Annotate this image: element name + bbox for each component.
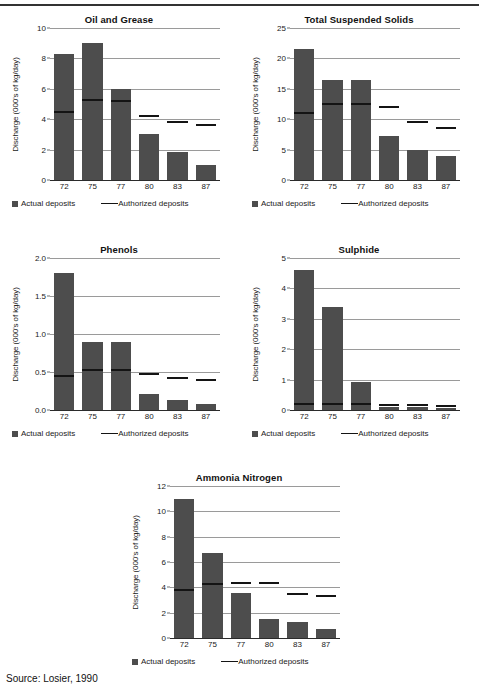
y-axis-label: Discharge (000's of kg/day) — [248, 258, 262, 410]
plot-area: Discharge (000's of kg/day)0510152025727… — [248, 28, 470, 196]
plot-area: Discharge (000's of kg/day)0.00.51.01.52… — [8, 258, 230, 426]
x-tick-label: 72 — [300, 412, 309, 421]
bar — [54, 273, 74, 410]
authorized-deposit-marker — [231, 582, 251, 584]
y-tick-label: 0.0 — [35, 406, 50, 415]
gridline — [50, 334, 220, 335]
gridline — [290, 28, 460, 29]
y-tick-label: 5 — [282, 254, 290, 263]
bar — [196, 404, 216, 410]
plot-area: Discharge (000's of kg/day)0246810127275… — [128, 486, 350, 654]
gridline — [50, 119, 220, 120]
authorized-deposit-marker — [436, 405, 456, 407]
bar — [351, 382, 371, 410]
gridline — [170, 486, 340, 487]
x-tick-label: 87 — [201, 182, 210, 191]
gridline — [50, 258, 220, 259]
authorized-deposit-marker — [139, 115, 159, 117]
bar — [82, 342, 102, 410]
gridline — [170, 613, 340, 614]
legend-label-authorized: Authorized deposits — [358, 429, 428, 438]
gridline — [170, 511, 340, 512]
authorized-deposit-marker — [202, 583, 222, 585]
authorized-deposit-marker — [379, 404, 399, 406]
gridline — [290, 58, 460, 59]
bar — [322, 80, 342, 180]
x-tick-label: 80 — [385, 182, 394, 191]
x-tick-label: 72 — [180, 640, 189, 649]
authorized-deposit-marker — [196, 379, 216, 381]
plot-area: Discharge (000's of kg/day)0123457275778… — [248, 258, 470, 426]
line-swatch-icon — [101, 203, 118, 205]
source-note: Source: Losier, 1990 — [6, 673, 98, 684]
legend-item-actual: Actual deposits — [12, 429, 75, 438]
x-tick-label: 72 — [60, 182, 69, 191]
y-tick-label: 12 — [157, 482, 170, 491]
chart-legend: Actual depositsAuthorized deposits — [252, 199, 474, 208]
y-tick-label: 6 — [162, 558, 170, 567]
chart-panel: Ammonia NitrogenDischarge (000's of kg/d… — [128, 472, 350, 666]
square-swatch-icon — [12, 201, 18, 207]
authorized-deposit-marker — [436, 127, 456, 129]
y-tick-label: 6 — [42, 84, 50, 93]
y-axis-label-text: Discharge (000's of kg/day) — [11, 287, 20, 381]
x-tick-label: 75 — [328, 412, 337, 421]
x-tick-label: 83 — [173, 182, 182, 191]
legend-item-authorized: Authorized deposits — [101, 429, 188, 438]
bar — [54, 54, 74, 180]
y-tick-label: 0 — [282, 406, 290, 415]
authorized-deposit-marker — [259, 582, 279, 584]
legend-label-actual: Actual deposits — [21, 199, 75, 208]
authorized-deposit-marker — [407, 121, 427, 123]
y-axis-label-text: Discharge (000's of kg/day) — [11, 57, 20, 151]
bar — [139, 394, 159, 410]
authorized-deposit-marker — [351, 103, 371, 105]
square-swatch-icon — [252, 431, 258, 437]
bar — [196, 165, 216, 180]
legend-item-actual: Actual deposits — [252, 199, 315, 208]
bar — [111, 342, 131, 410]
gridline — [50, 150, 220, 151]
gridline — [50, 296, 220, 297]
chart-legend: Actual depositsAuthorized deposits — [12, 199, 234, 208]
x-tick-label: 87 — [441, 182, 450, 191]
x-tick-label: 77 — [116, 182, 125, 191]
gridline — [50, 28, 220, 29]
x-tick-label: 83 — [413, 412, 422, 421]
authorized-deposit-marker — [351, 403, 371, 405]
legend-label-actual: Actual deposits — [261, 429, 315, 438]
x-tick-label: 83 — [173, 412, 182, 421]
line-swatch-icon — [341, 433, 358, 435]
legend-item-authorized: Authorized deposits — [221, 657, 308, 666]
y-tick-label: 1.5 — [35, 292, 50, 301]
gridline — [50, 89, 220, 90]
y-tick-label: 5 — [282, 145, 290, 154]
authorized-deposit-marker — [379, 106, 399, 108]
gridline — [290, 89, 460, 90]
authorized-deposit-marker — [82, 369, 102, 371]
legend-label-authorized: Authorized deposits — [118, 199, 188, 208]
gridline — [170, 562, 340, 563]
y-tick-label: 1.0 — [35, 330, 50, 339]
chart-panel: PhenolsDischarge (000's of kg/day)0.00.5… — [8, 244, 230, 438]
y-axis-label: Discharge (000's of kg/day) — [248, 28, 262, 180]
bar — [259, 619, 279, 638]
y-tick-label: 2 — [162, 608, 170, 617]
x-tick-label: 75 — [328, 182, 337, 191]
plot-box: 0510152025727577808387 — [290, 28, 460, 180]
x-tick-label: 80 — [145, 412, 154, 421]
legend-item-actual: Actual deposits — [132, 657, 195, 666]
x-tick-label: 77 — [116, 412, 125, 421]
legend-item-actual: Actual deposits — [252, 429, 315, 438]
x-tick-label: 72 — [60, 412, 69, 421]
authorized-deposit-marker — [111, 369, 131, 371]
x-tick-label: 77 — [356, 412, 365, 421]
gridline — [50, 58, 220, 59]
x-tick-label: 80 — [265, 640, 274, 649]
chart-legend: Actual depositsAuthorized deposits — [132, 657, 354, 666]
y-tick-label: 3 — [282, 314, 290, 323]
y-axis-label: Discharge (000's of kg/day) — [128, 486, 142, 638]
authorized-deposit-marker — [316, 595, 336, 597]
axis-baseline — [290, 180, 460, 181]
y-tick-label: 4 — [162, 583, 170, 592]
